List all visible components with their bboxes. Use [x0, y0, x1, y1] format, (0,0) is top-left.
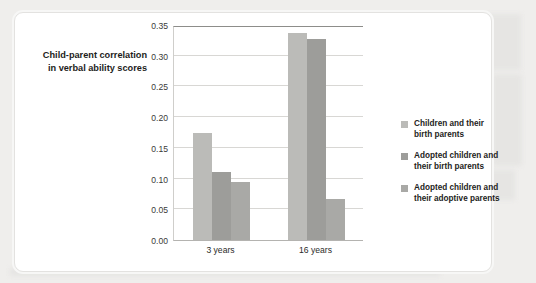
y-axis-tick-label: 0.20: [151, 113, 168, 123]
y-axis-tick-label: 0.15: [151, 144, 168, 154]
legend-swatch-icon: [401, 153, 408, 160]
legend-item[interactable]: Adopted children andtheir birth parents: [401, 151, 511, 172]
legend-label-line2: their adoptive parents: [414, 194, 500, 203]
scan-artifact: [487, 14, 521, 70]
chart-card: Child-parent correlation in verbal abili…: [14, 12, 492, 272]
legend-label-line1: Adopted children and: [414, 151, 498, 160]
legend-label: Children and theirbirth parents: [414, 119, 484, 140]
y-axis-tick-label: 0.30: [151, 52, 168, 62]
legend-item[interactable]: Children and theirbirth parents: [401, 119, 511, 140]
legend-label: Adopted children andtheir adoptive paren…: [414, 183, 500, 204]
y-axis-tick-label: 0.25: [151, 82, 168, 92]
bar: [288, 33, 307, 240]
legend-swatch-icon: [401, 185, 408, 192]
bar: [212, 172, 231, 240]
bar: [193, 133, 212, 241]
y-axis-title-line1: Child-parent correlation: [43, 50, 147, 60]
x-axis-tick-label: 16 years: [299, 245, 332, 255]
y-axis-tick-label: 0.00: [151, 236, 168, 246]
legend-swatch-icon: [401, 121, 408, 128]
bar: [231, 182, 250, 240]
legend-label-line2: birth parents: [414, 130, 464, 139]
y-axis-tick-label: 0.10: [151, 175, 168, 185]
bar-group: [193, 27, 250, 240]
bar: [307, 39, 326, 240]
bar-group: [288, 27, 345, 240]
x-axis-labels: 3 years16 years: [173, 245, 363, 259]
legend-label-line1: Children and their: [414, 119, 484, 128]
legend-label-line2: their birth parents: [414, 162, 484, 171]
plot-wrapper: 0.000.050.100.150.200.250.300.35 3 years…: [139, 26, 364, 258]
page-background: Child-parent correlation in verbal abili…: [0, 0, 536, 283]
legend-label-line1: Adopted children and: [414, 183, 498, 192]
x-axis-tick-label: 3 years: [206, 245, 234, 255]
y-axis-title-line2: in verbal ability scores: [19, 62, 147, 75]
plot-area: [173, 26, 363, 241]
legend-label: Adopted children andtheir birth parents: [414, 151, 498, 172]
y-axis-ticks: 0.000.050.100.150.200.250.300.35: [139, 26, 171, 241]
y-axis-tick-label: 0.35: [151, 21, 168, 31]
chart-legend: Children and theirbirth parentsAdopted c…: [401, 119, 511, 215]
legend-item[interactable]: Adopted children andtheir adoptive paren…: [401, 183, 511, 204]
y-axis-title: Child-parent correlation in verbal abili…: [19, 49, 147, 74]
y-axis-tick-label: 0.05: [151, 205, 168, 215]
bar: [326, 199, 345, 240]
